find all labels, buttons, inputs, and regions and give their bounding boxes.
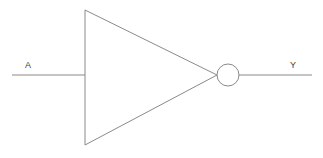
inversion-bubble-icon (217, 64, 239, 86)
logic-gate-diagram: A Y (0, 0, 323, 158)
not-gate-svg (0, 0, 323, 158)
output-port-label: Y (290, 61, 296, 70)
input-port-label: A (25, 61, 31, 70)
inverter-triangle-icon (85, 10, 217, 145)
